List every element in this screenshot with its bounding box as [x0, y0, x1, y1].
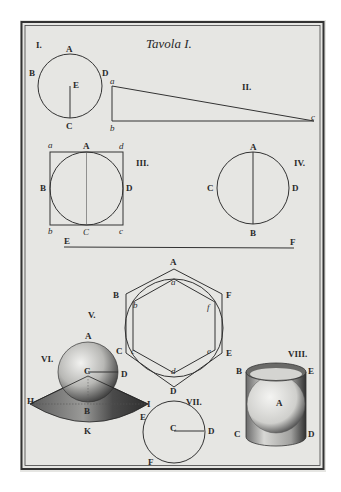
figure-vi-label-i: I: [147, 399, 151, 409]
figure-i-label-a: A: [66, 44, 73, 54]
figure-vii-number: VII.: [186, 397, 202, 407]
figure-iii-number: III.: [136, 158, 149, 168]
figure-v-label-e: E: [226, 348, 232, 358]
figure-viii-label-a: A: [276, 398, 283, 408]
figure-vi-label-b: B: [84, 406, 90, 416]
figure-iv-label-c: C: [207, 183, 214, 193]
figure-v-label-b-lower: b: [133, 300, 138, 310]
figure-vii-label-c: C: [170, 423, 177, 433]
figure-iii-label-d: D: [126, 183, 133, 193]
figure-v-label-f: F: [226, 290, 232, 300]
figure-vii-label-d: D: [208, 426, 215, 436]
figure-iv-label-a: A: [250, 142, 257, 152]
figure-ii-label-a: a: [110, 76, 115, 86]
figure-v-label-b: B: [113, 290, 119, 300]
figure-i-label-c: C: [66, 121, 73, 131]
figure-v-label-a-lower: a: [171, 277, 176, 287]
figure-vi-label-c: C: [84, 366, 91, 376]
figure-v-label-d-lower: d: [171, 366, 176, 376]
figure-i-label-e: E: [73, 80, 79, 90]
line-ef-label-e: E: [64, 236, 70, 246]
figure-viii-number: VIII.: [288, 349, 307, 359]
figure-iii-label-b: B: [40, 183, 46, 193]
figure-i-number: I.: [36, 40, 42, 50]
figure-iii-label-c-lower: c: [119, 226, 123, 236]
figure-viii-label-d: D: [308, 429, 315, 439]
figure-vi-label-k: K: [84, 426, 91, 436]
figure-vi-label-h: H: [27, 396, 34, 406]
figure-v-label-a: A: [170, 257, 177, 267]
figure-v-label-d: D: [170, 386, 177, 396]
figure-v-number: V.: [88, 310, 96, 320]
figure-viii-label-e: E: [308, 366, 314, 376]
figure-iv-label-d: D: [292, 183, 299, 193]
figure-ii-label-c: c: [311, 112, 315, 122]
figure-iv-number: IV.: [294, 158, 305, 168]
figure-vii-label-f: F: [148, 457, 154, 467]
figure-ii-number: II.: [242, 82, 251, 92]
plate-title: Tavola I.: [146, 36, 192, 51]
figure-v-label-c: C: [116, 346, 123, 356]
figure-viii-label-b: B: [236, 366, 242, 376]
figure-iii-label-a: A: [83, 141, 90, 151]
figure-v-label-e-lower: e: [207, 346, 211, 356]
figure-i-label-d: D: [102, 68, 109, 78]
figure-iii-label-a-lower: a: [48, 140, 53, 150]
figure-vii-label-e: E: [140, 412, 146, 422]
line-ef-label-f: F: [290, 237, 296, 247]
figure-ii-label-b: b: [110, 123, 115, 133]
figure-iv-label-b: B: [250, 228, 256, 238]
figure-vi-label-d: D: [121, 369, 128, 379]
engraving-plate: Tavola I. I. A B D E C II. a b c III. a …: [0, 0, 341, 492]
figure-iii-label-b-lower: b: [48, 226, 53, 236]
figure-vi-number: VI.: [41, 354, 53, 364]
figure-iii-label-d-lower: d: [119, 141, 124, 151]
figure-vi-label-a: A: [85, 331, 92, 341]
figure-i-label-b: B: [29, 68, 35, 78]
figure-v-label-c-lower: c: [131, 346, 135, 356]
figure-iii-label-c: C: [83, 227, 90, 237]
figure-viii-label-c: C: [234, 429, 241, 439]
